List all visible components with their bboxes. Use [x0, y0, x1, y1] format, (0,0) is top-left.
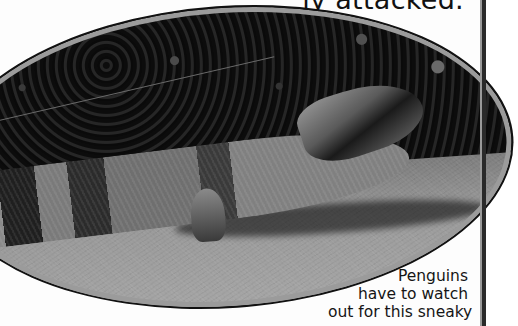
- caption-line: have to watch: [328, 285, 468, 303]
- caption-line: Penguins: [328, 267, 468, 285]
- photo-caption: Penguins have to watch out for this snea…: [328, 267, 468, 321]
- page-edge-rule: [482, 0, 486, 326]
- caption-line: out for this sneaky: [328, 303, 468, 321]
